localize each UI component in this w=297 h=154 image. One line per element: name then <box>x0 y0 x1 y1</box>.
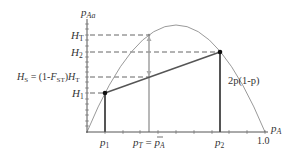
label-H2: H2 <box>70 46 83 60</box>
label-HS: HS = (1-FST)HT <box>16 71 80 84</box>
heterozygosity-diagram: pAa pA 1.0 2p(1-p) HT H2 HS = (1-FST)HT … <box>0 0 297 154</box>
point-p2 <box>218 50 223 55</box>
label-p2: p2 <box>214 136 225 150</box>
point-HT <box>148 34 151 37</box>
label-H1: H1 <box>71 87 84 101</box>
label-HT: HT <box>70 29 84 43</box>
label-pT: pT = pA <box>132 136 165 150</box>
point-p1 <box>103 91 108 96</box>
mean-line <box>105 52 220 93</box>
arrow-down-icon <box>147 71 152 76</box>
x-end-tick-label: 1.0 <box>257 135 270 146</box>
x-axis-title: pA <box>270 122 282 136</box>
curve-label: 2p(1-p) <box>228 75 260 87</box>
y-axis-title: pAa <box>80 6 95 20</box>
label-p1: p1 <box>99 136 110 150</box>
